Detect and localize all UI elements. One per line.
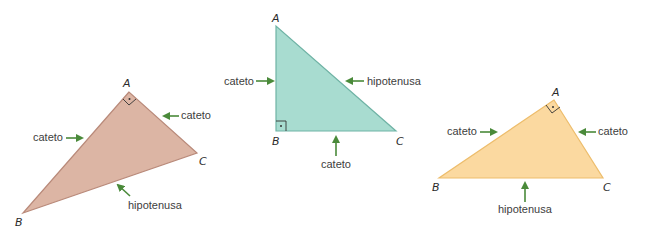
right-triangles-diagram: A B C cateto cateto hipotenusa A B C cat… bbox=[0, 0, 645, 231]
vertex-b-label: B bbox=[272, 135, 280, 148]
vertex-a-label: A bbox=[551, 86, 560, 99]
triangle-3-shape bbox=[439, 100, 603, 178]
triangle-1: A B C cateto cateto hipotenusa bbox=[15, 77, 211, 229]
leg-label-left: cateto bbox=[224, 75, 254, 87]
triangle-1-shape bbox=[23, 92, 197, 213]
arrow-icon bbox=[118, 185, 130, 196]
triangle-3: A B C cateto cateto hipotenusa bbox=[432, 86, 628, 215]
vertex-c-label: C bbox=[603, 181, 611, 194]
leg-label-left: cateto bbox=[447, 125, 477, 137]
vertex-c-label: C bbox=[396, 135, 404, 148]
vertex-a-label: A bbox=[122, 77, 131, 90]
vertex-a-label: A bbox=[271, 12, 280, 25]
leg-label-right: cateto bbox=[598, 125, 628, 137]
leg-label-left: cateto bbox=[33, 131, 63, 143]
vertex-b-label: B bbox=[15, 216, 23, 229]
leg-label-right: cateto bbox=[181, 109, 211, 121]
leg-label-bottom: cateto bbox=[321, 158, 351, 170]
triangle-2: A B C cateto hipotenusa cateto bbox=[224, 12, 422, 170]
vertex-c-label: C bbox=[199, 155, 207, 168]
hypotenuse-label: hipotenusa bbox=[128, 199, 183, 211]
vertex-b-label: B bbox=[432, 181, 440, 194]
hypotenuse-label: hipotenusa bbox=[367, 75, 422, 87]
hypotenuse-label: hipotenusa bbox=[498, 203, 553, 215]
